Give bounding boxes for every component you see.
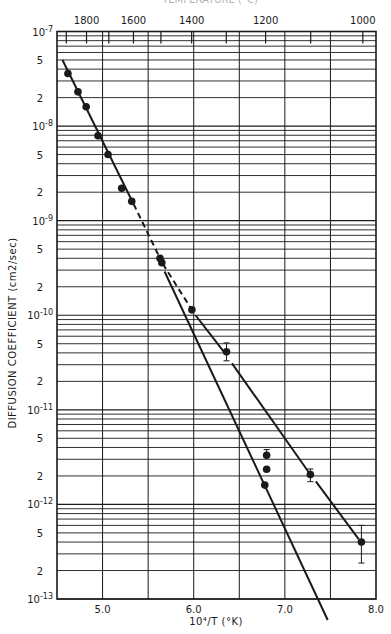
data-point	[223, 348, 231, 356]
data-point	[263, 466, 271, 474]
y-minor-label: 5	[37, 244, 43, 255]
data-point	[64, 70, 72, 78]
y-minor-label: 5	[37, 55, 43, 66]
y-decade-label: 10-13	[27, 592, 53, 605]
data-point	[74, 88, 82, 96]
x-tick-label: 5.0	[95, 604, 111, 615]
data-point	[158, 259, 166, 267]
y-minor-label: 2	[37, 187, 43, 198]
top-axis-label: 1600	[121, 15, 146, 26]
data-point	[188, 306, 196, 314]
data-points	[64, 70, 365, 563]
top-temperature-axis: 18001600140012001000	[66, 15, 375, 44]
diffusion-arrhenius-chart: TEMPERATURE (°C) 18001600140012001000 10…	[0, 0, 391, 634]
y-decade-label: 10-8	[32, 119, 53, 132]
y-minor-label: 2	[37, 566, 43, 577]
y-axis-tick-labels: 10-710-810-910-1010-1110-1210-1352525252…	[27, 25, 53, 606]
y-minor-label: 5	[37, 339, 43, 350]
fit-line	[165, 272, 328, 620]
data-point	[358, 538, 366, 546]
data-point	[104, 151, 112, 159]
x-axis-title: 10⁴/T (°K)	[189, 616, 243, 627]
fit-lines	[62, 60, 358, 620]
x-axis-tick-labels: 5.06.07.08.0	[95, 604, 384, 615]
y-minor-label: 5	[37, 150, 43, 161]
y-minor-label: 2	[37, 93, 43, 104]
data-point	[263, 452, 271, 460]
data-point	[128, 198, 136, 206]
y-axis-title: DIFFUSION COEFFICIENT (cm2/sec)	[7, 237, 18, 428]
top-axis-label: 1400	[179, 15, 204, 26]
y-decade-label: 10-12	[27, 497, 53, 510]
y-minor-label: 5	[37, 433, 43, 444]
y-minor-label: 2	[37, 471, 43, 482]
x-tick-label: 8.0	[368, 604, 384, 615]
top-axis-label: 1000	[350, 15, 375, 26]
y-decade-label: 10-9	[32, 214, 53, 227]
y-decade-label: 10-10	[27, 308, 53, 321]
x-tick-label: 7.0	[277, 604, 293, 615]
top-axis-label: 1800	[74, 15, 99, 26]
x-tick-label: 6.0	[186, 604, 202, 615]
y-minor-label: 2	[37, 376, 43, 387]
fit-line	[316, 481, 359, 539]
data-point	[94, 132, 102, 140]
y-decade-label: 10-11	[27, 403, 53, 416]
y-minor-label: 2	[37, 282, 43, 293]
y-decade-label: 10-7	[32, 25, 53, 38]
data-point	[261, 481, 269, 489]
top-axis-title-clipped: TEMPERATURE (°C)	[161, 0, 258, 5]
grid	[57, 32, 376, 600]
top-axis-label: 1200	[253, 15, 278, 26]
data-point	[307, 471, 315, 479]
data-point	[118, 184, 126, 192]
y-minor-label: 5	[37, 528, 43, 539]
data-point	[82, 103, 90, 111]
